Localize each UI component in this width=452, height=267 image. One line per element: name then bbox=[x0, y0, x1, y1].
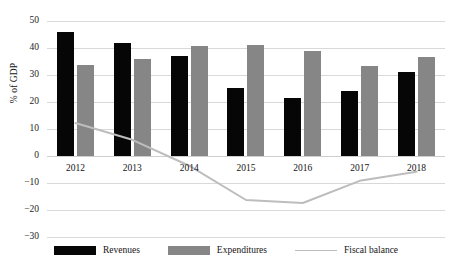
gray-line-swatch bbox=[295, 246, 337, 255]
gray-rect-swatch bbox=[168, 246, 210, 255]
y-tick-label: −10 bbox=[5, 178, 39, 188]
bar-revenues-2018 bbox=[398, 72, 415, 156]
bar-revenues-2017 bbox=[341, 91, 358, 156]
x-tick-label-2013: 2013 bbox=[104, 163, 161, 173]
legend-label: Expenditures bbox=[217, 245, 267, 255]
y-tick-label: 0 bbox=[5, 151, 39, 161]
bar-group bbox=[331, 21, 388, 237]
gridline--30 bbox=[47, 237, 445, 238]
bar-group bbox=[218, 21, 275, 237]
bar-expenditures-2013 bbox=[134, 59, 151, 156]
bar-group bbox=[161, 21, 218, 237]
y-tick-label: 20 bbox=[5, 97, 39, 107]
bar-expenditures-2016 bbox=[304, 51, 321, 156]
bar-expenditures-2018 bbox=[418, 57, 435, 156]
x-tick-label-2014: 2014 bbox=[161, 163, 218, 173]
y-tick-label: 40 bbox=[5, 43, 39, 53]
bar-group bbox=[388, 21, 445, 237]
y-tick-label: 10 bbox=[5, 124, 39, 134]
legend-label: Fiscal balance bbox=[344, 245, 398, 255]
bar-expenditures-2015 bbox=[247, 45, 264, 156]
x-axis-labels: 2012201320142015201620172018 bbox=[47, 163, 445, 179]
bar-revenues-2014 bbox=[171, 56, 188, 156]
legend-item-revenues[interactable]: Revenues bbox=[54, 245, 140, 255]
black-rect-swatch bbox=[54, 246, 96, 255]
bar-group bbox=[104, 21, 161, 237]
x-tick-label-2016: 2016 bbox=[274, 163, 331, 173]
plot-area: 50403020100−10−20−30 bbox=[47, 21, 445, 237]
y-tick-label: −20 bbox=[5, 205, 39, 215]
legend-item-expenditures[interactable]: Expenditures bbox=[168, 245, 267, 255]
chart-legend: RevenuesExpendituresFiscal balance bbox=[0, 239, 452, 261]
bar-groups bbox=[47, 21, 445, 237]
x-tick-label-2017: 2017 bbox=[331, 163, 388, 173]
bar-expenditures-2017 bbox=[361, 66, 378, 156]
bar-expenditures-2012 bbox=[77, 65, 94, 156]
bar-group bbox=[47, 21, 104, 237]
y-tick-label: 50 bbox=[5, 16, 39, 26]
bar-expenditures-2014 bbox=[191, 46, 208, 156]
x-tick-label-2018: 2018 bbox=[388, 163, 445, 173]
legend-item-fiscal-balance[interactable]: Fiscal balance bbox=[295, 245, 398, 255]
bar-revenues-2015 bbox=[227, 88, 244, 156]
y-tick-label: 30 bbox=[5, 70, 39, 80]
x-tick-label-2015: 2015 bbox=[218, 163, 275, 173]
fiscal-indicators-chart: % of GDP 50403020100−10−20−30 2012201320… bbox=[0, 0, 452, 267]
x-tick-label-2012: 2012 bbox=[47, 163, 104, 173]
bar-group bbox=[274, 21, 331, 237]
bar-revenues-2016 bbox=[284, 98, 301, 156]
bar-revenues-2013 bbox=[114, 43, 131, 156]
legend-label: Revenues bbox=[103, 245, 140, 255]
bar-revenues-2012 bbox=[57, 32, 74, 156]
y-axis-title: % of GDP bbox=[9, 43, 19, 123]
